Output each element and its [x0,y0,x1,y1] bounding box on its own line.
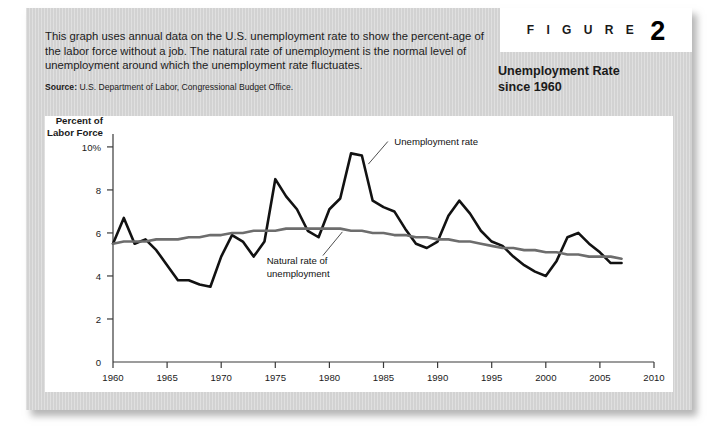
unemployment-rate-annotation: Unemployment rate [394,136,478,147]
y-tick-label: 8 [96,185,101,196]
natural-rate-annotation-line1: Natural rate of [267,255,328,266]
source-text: U.S. Department of Labor, Congressional … [79,82,293,92]
y-tick-label: 0 [96,357,101,368]
unemployment-rate-line [113,153,622,286]
y-axis-caption-line2: Labor Force [47,127,104,138]
figure-card: F I G U R E 2 This graph uses annual dat… [26,8,692,410]
x-tick-label: 1960 [102,372,123,383]
x-tick-label: 1990 [427,372,448,383]
unemployment-line-chart: Percent ofLabor Force0246810%19601965197… [45,116,673,392]
figure-intro-text: This graph uses annual data on the U.S. … [45,29,497,73]
x-tick-label: 1965 [156,372,177,383]
source-label: Source: [45,82,77,92]
y-tick-label: 4 [96,271,102,282]
x-tick-label: 2000 [535,372,556,383]
x-tick-label: 1985 [373,372,394,383]
figure-page: F I G U R E 2 This graph uses annual dat… [0,0,718,431]
y-axis-caption-line1: Percent of [56,116,104,126]
x-tick-label: 1980 [319,372,340,383]
figure-intro-block: This graph uses annual data on the U.S. … [45,29,497,93]
figure-number: 2 [650,18,665,45]
x-tick-label: 1995 [481,372,502,383]
figure-source-line: Source: U.S. Department of Labor, Congre… [45,82,497,93]
x-tick-label: 2005 [589,372,610,383]
chart-plot-panel: Percent ofLabor Force0246810%19601965197… [45,116,673,392]
y-tick-label: 10% [82,142,102,153]
y-tick-label: 2 [96,314,101,325]
y-tick-label: 6 [96,228,101,239]
figure-label: F I G U R E [527,23,639,37]
natural-rate-annotation-line2: unemployment [267,268,330,279]
x-tick-label: 2010 [643,372,664,383]
x-tick-label: 1975 [265,372,286,383]
natural-rate-leader-line [323,232,342,256]
unemployment-rate-leader-line [368,142,387,165]
x-tick-label: 1970 [211,372,232,383]
figure-title-line2: since 1960 [498,80,674,96]
natural-rate-line [113,229,622,259]
figure-title: Unemployment Rate since 1960 [498,64,674,95]
figure-tag-block: F I G U R E 2 [500,8,692,52]
figure-title-line1: Unemployment Rate [498,64,674,80]
